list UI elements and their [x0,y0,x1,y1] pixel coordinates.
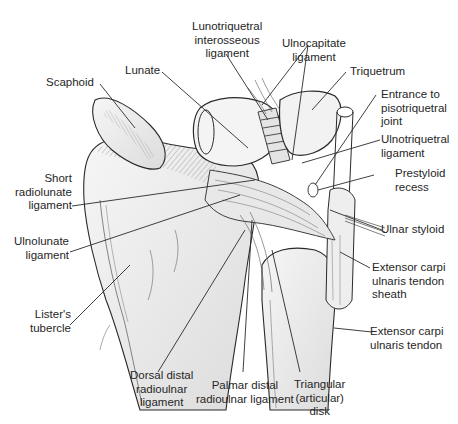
label-triangular-articular-disk: Triangular (articular) disk [294,378,345,419]
label-palmar-distal-radioulnar-ligament: Palmar distal radioulnar ligament [196,379,294,406]
label-ecu-tendon: Extensor carpi ulnaris tendon [370,325,444,352]
label-dorsal-distal-radioulnar-ligament: Dorsal distal radioulnar ligament [130,369,193,410]
label-ulnolunate-ligament: Ulnolunate ligament [14,235,69,262]
label-scaphoid: Scaphoid [46,76,94,90]
label-ecu-tendon-sheath: Extensor carpi ulnaris tendon sheath [372,261,446,302]
label-lunotriquetral-ligament: Lunotriquetral interosseous ligament [192,20,262,61]
label-ulnocapitate-ligament: Ulnocapitate ligament [282,37,346,64]
label-ulnar-styloid: Ulnar styloid [381,223,444,237]
label-short-radiolunate-ligament: Short radiolunate ligament [15,172,72,213]
label-lunate: Lunate [125,64,160,78]
label-triquetrum: Triquetrum [350,65,405,79]
anatomy-figure: Lunotriquetral interosseous ligament Uln… [0,0,458,424]
label-ulnotriquetral-ligament: Ulnotriquetral ligament [381,133,449,160]
label-entrance-pisotriquetral-joint: Entrance to pisotriquetral joint [381,88,447,129]
label-listers-tubercle: Lister's tubercle [30,308,71,335]
label-prestyloid-recess: Prestyloid recess [395,167,446,194]
triquetrum-bone [280,91,342,155]
